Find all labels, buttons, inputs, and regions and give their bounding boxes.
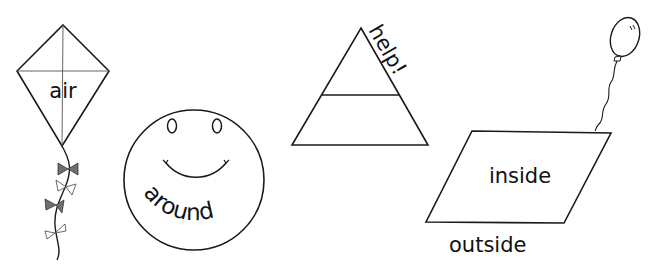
kite-bow-1 xyxy=(58,163,78,175)
balloon-knot xyxy=(614,56,621,61)
balloon xyxy=(606,14,645,61)
worksheet-canvas: air xyxy=(0,0,650,271)
smile-cap-left xyxy=(163,160,168,163)
balloon-string xyxy=(595,61,617,131)
kite-word: air xyxy=(49,79,77,103)
kite-bow-3 xyxy=(45,199,64,213)
triangle: help! xyxy=(292,21,428,146)
kite: air xyxy=(17,25,109,260)
right-eye xyxy=(213,119,222,133)
parallelogram-inside-word: inside xyxy=(489,164,551,188)
triangle-word: help! xyxy=(364,21,412,80)
balloon-shine xyxy=(630,25,635,30)
left-eye xyxy=(168,119,177,133)
smile-cap-right xyxy=(224,160,229,163)
kite-bow-2 xyxy=(56,180,76,195)
triangle-outline xyxy=(292,28,428,145)
smile xyxy=(166,163,226,177)
parallelogram-group: inside outside xyxy=(426,14,644,257)
parallelogram-outside-word: outside xyxy=(449,233,526,257)
smiley-word: around xyxy=(139,180,216,226)
smiley-face: around xyxy=(124,110,264,250)
smiley-outline xyxy=(124,110,264,250)
